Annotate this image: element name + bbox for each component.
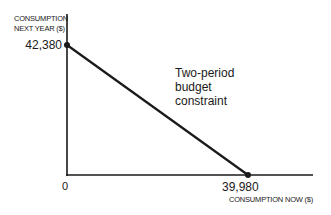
y-axis-label-line-2: NEXT YEAR ($) (14, 24, 64, 34)
annotation-line-2: budget (175, 80, 234, 94)
y-intercept-point (64, 42, 70, 48)
annotation-line-1: Two-period (175, 66, 234, 80)
x-intercept-point (245, 172, 251, 178)
origin-label: 0 (62, 180, 68, 192)
x-axis-label: CONSUMPTION NOW ($) (229, 195, 313, 204)
budget-constraint-line (67, 45, 248, 175)
y-axis-label-line-1: CONSUMPTION (14, 14, 64, 24)
x-tick-label: 39,980 (222, 180, 259, 194)
y-axis-label: CONSUMPTION NEXT YEAR ($) (14, 14, 64, 34)
y-tick-label: 42,380 (14, 38, 62, 52)
annotation-line-3: constraint (175, 94, 234, 108)
budget-constraint-annotation: Two-period budget constraint (175, 66, 234, 108)
